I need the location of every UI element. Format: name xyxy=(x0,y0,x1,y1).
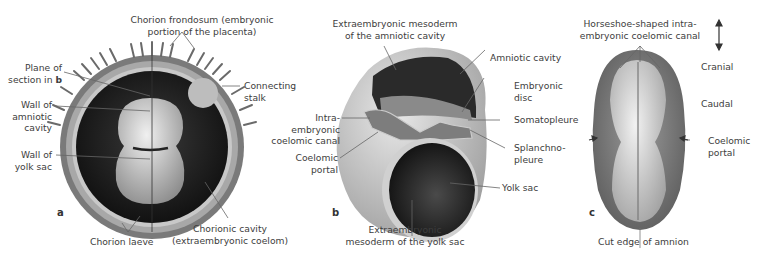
label-caudal: Caudal xyxy=(701,98,733,110)
label-chorionic-cavity-line1: Chorionic cavity xyxy=(170,223,290,235)
label-plane-line2: section in xyxy=(8,74,55,85)
label-intra-line2: embryonic xyxy=(260,124,340,136)
label-wall-yolk-line1: Wall of xyxy=(4,149,52,161)
label-plane-of-section: Plane of section in b xyxy=(4,62,62,85)
label-wall-yolk-line2: yolk sac xyxy=(4,161,52,173)
label-coelomic-portal-c-line1: Coelomic xyxy=(708,135,750,147)
label-plane-bold-ref: b xyxy=(55,74,62,85)
label-intra-line1: Intra- xyxy=(260,112,340,124)
chorionic-sac-illustration xyxy=(48,42,256,239)
label-horseshoe-line2: embryonic coelomic canal xyxy=(575,30,705,42)
label-chorion-frondosum: Chorion frondosum (embryonic portion of … xyxy=(112,14,292,37)
panel-label-c: c xyxy=(589,207,595,218)
label-splanchnopleure: Splanchno- pleure xyxy=(514,142,565,165)
label-emam-line2: of the amniotic cavity xyxy=(330,30,460,42)
label-emam-line1: Extraembryonic mesoderm xyxy=(330,18,460,30)
label-intra-line3: coelomic canal xyxy=(260,135,340,147)
label-extraembryonic-mesoderm-yolk-sac: Extraembryonic mesoderm of the yolk sac xyxy=(340,224,470,247)
label-coelomic-portal-b-line1: Coelomic xyxy=(280,152,338,164)
label-connecting-line2: stalk xyxy=(244,92,296,104)
label-wall-amniotic-line3: cavity xyxy=(4,122,52,134)
label-embryonic-disc-line2: disc xyxy=(514,92,563,104)
label-chorion-frondosum-line1: Chorion frondosum (embryonic xyxy=(112,14,292,26)
label-coelomic-portal-c: Coelomic portal xyxy=(708,135,750,158)
label-extraembryonic-mesoderm-amniotic: Extraembryonic mesoderm of the amniotic … xyxy=(330,18,460,41)
label-yolk-sac: Yolk sac xyxy=(502,182,538,194)
label-splanchno-line2: pleure xyxy=(514,154,565,166)
label-coelomic-portal-b: Coelomic portal xyxy=(280,152,338,175)
label-chorionic-cavity: Chorionic cavity (extraembryonic coelom) xyxy=(170,223,290,246)
label-wall-amniotic-cavity: Wall of amniotic cavity xyxy=(4,99,52,134)
label-somatopleure: Somatopleure xyxy=(514,114,578,126)
label-coelomic-portal-c-line2: portal xyxy=(708,147,750,159)
label-connecting-stalk: Connecting stalk xyxy=(244,80,296,103)
label-chorionic-cavity-line2: (extraembryonic coelom) xyxy=(170,235,290,247)
label-intraembryonic-coelomic-canal: Intra- embryonic coelomic canal xyxy=(260,112,340,147)
label-chorion-laeve: Chorion laeve xyxy=(90,236,153,248)
label-splanchno-line1: Splanchno- xyxy=(514,142,565,154)
label-embryonic-disc: Embryonic disc xyxy=(514,80,563,103)
label-horseshoe-coelomic-canal: Horseshoe-shaped intra- embryonic coelom… xyxy=(575,18,705,41)
label-horseshoe-line1: Horseshoe-shaped intra- xyxy=(575,18,705,30)
label-embryonic-disc-line1: Embryonic xyxy=(514,80,563,92)
label-connecting-line1: Connecting xyxy=(244,80,296,92)
label-coelomic-portal-b-line2: portal xyxy=(280,164,338,176)
panel-label-a: a xyxy=(57,207,64,218)
label-wall-yolk-sac: Wall of yolk sac xyxy=(4,149,52,172)
label-plane-line1: Plane of xyxy=(4,62,62,74)
label-chorion-frondosum-line2: portion of the placenta) xyxy=(112,26,292,38)
label-wall-amniotic-line1: Wall of xyxy=(4,99,52,111)
label-cranial: Cranial xyxy=(701,61,733,73)
label-cut-edge-of-amnion: Cut edge of amnion xyxy=(598,236,689,248)
label-wall-amniotic-line2: amniotic xyxy=(4,111,52,123)
label-emys-line1: Extraembryonic xyxy=(340,224,470,236)
embryo-dorsal-illustration xyxy=(593,50,686,248)
label-amniotic-cavity: Amniotic cavity xyxy=(490,52,561,64)
label-emys-line2: mesoderm of the yolk sac xyxy=(340,236,470,248)
panel-label-b: b xyxy=(332,207,339,218)
